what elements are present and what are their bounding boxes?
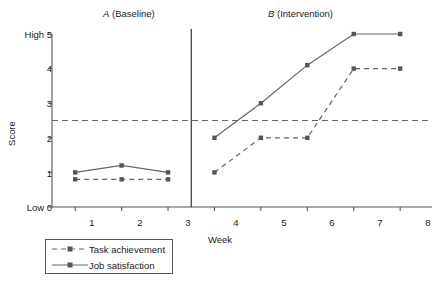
legend-key-solid-icon [51, 258, 89, 272]
data-point-marker [73, 177, 77, 181]
data-point-marker [166, 170, 170, 174]
data-point-marker [212, 136, 216, 140]
data-point-marker [352, 66, 356, 70]
figure-container: A (Baseline) B (Intervention) Score Week… [0, 0, 440, 284]
data-point-marker [398, 32, 402, 36]
data-point-marker [398, 66, 402, 70]
legend: Task achievement Job satisfaction [45, 239, 173, 274]
data-point-marker [73, 170, 77, 174]
data-point-marker [352, 32, 356, 36]
data-point-marker [259, 101, 263, 105]
series-line-1 [214, 34, 400, 138]
legend-key-dashed-icon [51, 242, 89, 256]
data-point-marker [212, 170, 216, 174]
legend-label-0: Task achievement [89, 244, 165, 255]
data-point-marker [305, 63, 309, 67]
legend-label-1: Job satisfaction [89, 260, 154, 271]
data-point-marker [166, 177, 170, 181]
data-point-marker [119, 163, 123, 167]
data-point-marker [119, 177, 123, 181]
legend-item-job-satisfaction: Job satisfaction [46, 257, 172, 273]
data-point-marker [305, 136, 309, 140]
legend-item-task-achievement: Task achievement [46, 241, 172, 257]
data-point-marker [259, 136, 263, 140]
